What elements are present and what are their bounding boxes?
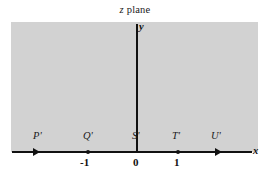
tick-label-one: 1 (174, 156, 180, 168)
tick-label-zero: 0 (133, 156, 139, 168)
dot-minus-one (86, 150, 90, 154)
figure-title: z plane (0, 4, 270, 15)
z-plane-figure: z plane x y P' Q' S' T' U' -1 0 1 (0, 0, 270, 177)
point-label-p-prime: P' (33, 130, 42, 141)
point-label-q-prime: Q' (83, 130, 93, 141)
arrow-p-prime-icon (33, 148, 40, 156)
figure-title-text: plane (124, 4, 151, 15)
dot-plus-one (176, 150, 180, 154)
point-label-t-prime: T' (172, 130, 180, 141)
point-label-u-prime: U' (211, 130, 221, 141)
x-axis-label: x (253, 145, 258, 156)
y-axis-label: y (139, 21, 144, 32)
tick-label-minus-one: -1 (80, 156, 89, 168)
point-label-s-prime: S' (132, 130, 140, 141)
arrow-u-prime-icon (215, 148, 222, 156)
